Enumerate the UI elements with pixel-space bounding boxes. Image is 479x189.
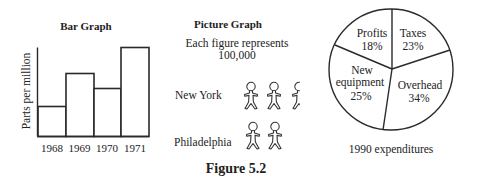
pie-value-new-equipment: 25% [350, 90, 372, 102]
pie-graph: Profits 18% Taxes 23% Overhead 34% New e… [329, 9, 453, 156]
person-icon [268, 82, 281, 109]
bar-graph-y-axis-label: Parts per million [20, 52, 33, 129]
bar-1969 [66, 74, 94, 137]
figure-caption: Figure 5.2 [206, 161, 266, 176]
pie-label-new-equipment-line2: equipment [336, 76, 385, 89]
picture-graph-title: Picture Graph [194, 18, 262, 30]
pie-caption: 1990 expenditures [349, 143, 434, 156]
bar-1968 [38, 107, 66, 137]
picture-graph-key-line2: 100,000 [218, 49, 256, 62]
pie-circle [329, 9, 453, 130]
x-tick-label: 1968 [41, 142, 64, 154]
person-icon-half [293, 82, 306, 109]
bar-1970 [94, 89, 121, 137]
bar-graph: Bar Graph Parts per million 1968 1969 19… [20, 20, 149, 154]
pie-label-taxes: Taxes [400, 27, 427, 39]
picture-graph: Picture Graph Each figure represents 100… [174, 18, 306, 176]
bar-1971 [121, 48, 149, 137]
pie-value-profits: 18% [361, 40, 383, 52]
pie-divider [383, 69, 392, 130]
person-icon [269, 122, 282, 149]
x-tick-label: 1969 [69, 142, 92, 154]
pie-label-profits: Profits [357, 27, 388, 39]
person-icon [245, 82, 258, 109]
bar-graph-title: Bar Graph [60, 20, 111, 32]
pie-label-new-equipment-line1: New [351, 64, 373, 76]
pie-value-overhead: 34% [408, 92, 430, 104]
x-tick-label: 1970 [96, 142, 119, 154]
pie-label-overhead: Overhead [398, 79, 443, 91]
x-tick-label: 1971 [124, 142, 146, 154]
pie-value-taxes: 23% [402, 40, 424, 52]
pie-divider [392, 50, 450, 69]
figure-5-2: Bar Graph Parts per million 1968 1969 19… [0, 0, 479, 189]
row-label-philadelphia: Philadelphia [174, 136, 232, 149]
row-label-new-york: New York [175, 89, 222, 101]
person-icon [247, 122, 260, 149]
